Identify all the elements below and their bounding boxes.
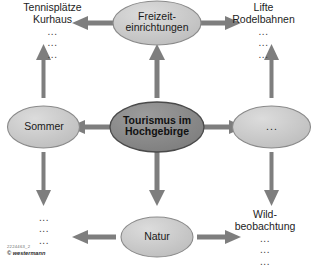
diagram-canvas: Freizeit- einrichtungen Sommer ... Natur… [0, 0, 314, 274]
leaf-dots-1: ... [213, 26, 314, 37]
arrow-center-to-freizeit [149, 44, 165, 98]
leaf-bottom-left: ... ... ... [0, 212, 88, 246]
leaf-dots-2: ... [216, 244, 314, 255]
arrow-center-to-natur [149, 152, 165, 206]
node-oval-blank-right[interactable] [233, 106, 311, 148]
credit-block: 2224463_2 © westermann [7, 245, 45, 256]
leaf-bottom-right: Wild- beobachtung ... ... ... [216, 209, 314, 267]
leaf-dots-3: ... [0, 49, 105, 60]
arrow-sommer-to-leaf-bottom-left [36, 152, 51, 206]
credit-publisher: © westermann [7, 250, 45, 256]
leaf-dots-3: ... [213, 49, 314, 60]
leaf-heading-line2: beobachtung [216, 221, 314, 233]
leaf-dots-2: ... [0, 37, 105, 48]
leaf-dots-2: ... [213, 37, 314, 48]
leaf-top-left: Tennisplätze Kurhaus ... ... ... [0, 2, 105, 60]
leaf-heading-line2: Rodelbahnen [213, 14, 314, 26]
leaf-dots-1: ... [0, 26, 105, 37]
node-oval-natur[interactable] [121, 217, 193, 257]
arrow-rightnode-to-wildbeobachtung [264, 152, 279, 206]
leaf-dots-3: ... [216, 256, 314, 267]
node-oval-center[interactable] [110, 102, 204, 152]
leaf-dots-2: ... [0, 223, 88, 234]
leaf-top-right: Lifte Rodelbahnen ... ... ... [213, 2, 314, 60]
node-oval-freizeiteinrichtungen[interactable] [113, 1, 201, 45]
leaf-dots-1: ... [0, 212, 88, 223]
leaf-heading-line2: Kurhaus [0, 14, 105, 26]
leaf-dots-1: ... [216, 233, 314, 244]
node-oval-sommer[interactable] [8, 106, 80, 148]
